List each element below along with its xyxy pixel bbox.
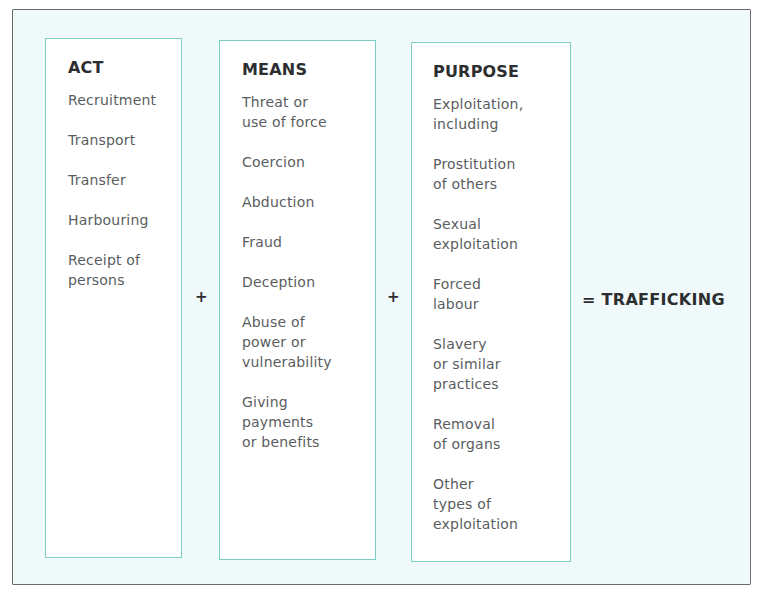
list-item: Coercion — [242, 152, 375, 172]
list-item: Receipt of persons — [68, 250, 181, 290]
list-item: Prostitution of others — [433, 154, 570, 194]
list-item: Sexual exploitation — [433, 214, 570, 254]
column-act: ACT Recruitment Transport Transfer Harbo… — [45, 38, 182, 558]
column-purpose: PURPOSE Exploitation, including Prostitu… — [411, 42, 571, 562]
plus-operator: + — [195, 288, 208, 306]
list-item: Threat or use of force — [242, 92, 375, 132]
list-item: Transport — [68, 130, 181, 150]
result-trafficking: = TRAFFICKING — [582, 290, 725, 309]
plus-operator: + — [387, 288, 400, 306]
list-item: Transfer — [68, 170, 181, 190]
column-title-purpose: PURPOSE — [433, 62, 570, 81]
list-item: Abuse of power or vulnerability — [242, 312, 375, 372]
list-item: Abduction — [242, 192, 375, 212]
column-title-means: MEANS — [242, 60, 375, 79]
list-item: Other types of exploitation — [433, 474, 570, 534]
list-item: Fraud — [242, 232, 375, 252]
list-item: Forced labour — [433, 274, 570, 314]
list-item: Recruitment — [68, 90, 181, 110]
list-item: Giving payments or benefits — [242, 392, 375, 452]
list-item: Exploitation, including — [433, 94, 570, 134]
column-title-act: ACT — [68, 58, 181, 77]
list-item: Removal of organs — [433, 414, 570, 454]
list-item: Deception — [242, 272, 375, 292]
list-item: Slavery or similar practices — [433, 334, 570, 394]
column-means: MEANS Threat or use of force Coercion Ab… — [219, 40, 376, 560]
list-item: Harbouring — [68, 210, 181, 230]
